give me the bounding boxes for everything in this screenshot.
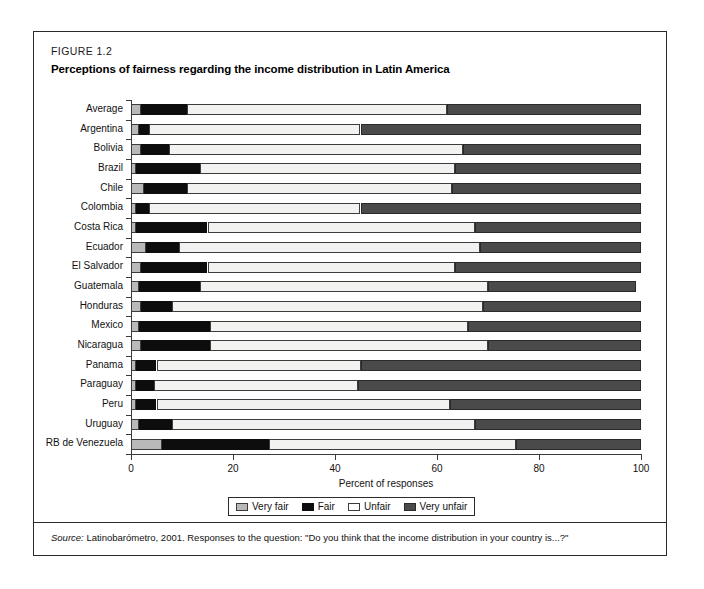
bar-segment-fair bbox=[139, 419, 172, 430]
x-axis-tick-label: 0 bbox=[111, 463, 151, 474]
bar-segment-very-unfair bbox=[358, 380, 641, 391]
bar-segment-unfair bbox=[210, 321, 468, 332]
figure-panel: FIGURE 1.2 Perceptions of fairness regar… bbox=[33, 31, 667, 556]
bar-segment-very-fair bbox=[131, 262, 141, 273]
bar-segment-unfair bbox=[269, 439, 516, 450]
bar-segment-very-unfair bbox=[361, 203, 642, 214]
y-axis-label: Honduras bbox=[0, 300, 123, 311]
x-axis-tick-label: 20 bbox=[213, 463, 253, 474]
bar-segment-very-unfair bbox=[468, 321, 641, 332]
bar-segment-very-fair bbox=[131, 419, 139, 430]
y-axis-label: Ecuador bbox=[0, 241, 123, 252]
y-axis-label: Costa Rica bbox=[0, 221, 123, 232]
bar-segment-very-unfair bbox=[475, 222, 641, 233]
bar-segment-very-fair bbox=[131, 183, 144, 194]
bar-segment-very-fair bbox=[131, 281, 139, 292]
legend-item-very-unfair[interactable]: Very unfair bbox=[404, 501, 468, 512]
y-axis-tick bbox=[126, 218, 131, 219]
y-axis-tick bbox=[126, 139, 131, 140]
bar-segment-fair bbox=[144, 183, 187, 194]
bar-segment-unfair bbox=[157, 399, 450, 410]
bar-row bbox=[131, 262, 641, 273]
x-axis-tick bbox=[233, 455, 234, 460]
y-axis-tick bbox=[126, 120, 131, 121]
bar-segment-unfair bbox=[200, 163, 455, 174]
legend-swatch-icon bbox=[236, 503, 248, 511]
y-axis-label: Brazil bbox=[0, 162, 123, 173]
bar-row bbox=[131, 222, 641, 233]
legend-item-very-fair[interactable]: Very fair bbox=[236, 501, 289, 512]
y-axis-tick bbox=[126, 395, 131, 396]
y-axis-label: El Salvador bbox=[0, 260, 123, 271]
bar-segment-unfair bbox=[200, 281, 488, 292]
bar-row bbox=[131, 360, 641, 371]
chart-legend: Very fairFairUnfairVery unfair bbox=[228, 497, 475, 516]
bar-segment-fair bbox=[141, 262, 207, 273]
bar-segment-very-unfair bbox=[483, 301, 641, 312]
bar-segment-unfair bbox=[208, 222, 476, 233]
y-axis-label: Nicaragua bbox=[0, 339, 123, 350]
bar-row bbox=[131, 380, 641, 391]
x-axis-tick bbox=[131, 455, 132, 460]
legend-label: Very unfair bbox=[420, 501, 468, 512]
y-axis-label: Average bbox=[0, 103, 123, 114]
bar-row bbox=[131, 340, 641, 351]
bar-segment-unfair bbox=[210, 340, 488, 351]
bar-row bbox=[131, 163, 641, 174]
y-axis-label: Mexico bbox=[0, 319, 123, 330]
y-axis-label: Argentina bbox=[0, 123, 123, 134]
y-axis-label: RB de Venezuela bbox=[0, 437, 123, 448]
bar-segment-fair bbox=[139, 281, 200, 292]
x-axis-tick bbox=[641, 455, 642, 460]
bar-segment-very-fair bbox=[131, 124, 139, 135]
y-axis-label: Paraguay bbox=[0, 378, 123, 389]
legend-label: Fair bbox=[318, 501, 335, 512]
bar-segment-unfair bbox=[169, 144, 462, 155]
y-axis-tick bbox=[126, 434, 131, 435]
bar-segment-very-unfair bbox=[452, 183, 641, 194]
bar-row bbox=[131, 301, 641, 312]
x-axis-line bbox=[131, 454, 642, 455]
y-axis-label: Uruguay bbox=[0, 418, 123, 429]
x-axis-title: Percent of responses bbox=[131, 478, 641, 489]
bar-segment-fair bbox=[136, 360, 156, 371]
x-axis-tick-label: 80 bbox=[519, 463, 559, 474]
y-axis-tick bbox=[126, 356, 131, 357]
bar-segment-fair bbox=[141, 144, 169, 155]
legend-item-fair[interactable]: Fair bbox=[302, 501, 335, 512]
figure-number: FIGURE 1.2 bbox=[51, 45, 112, 57]
bar-segment-fair bbox=[141, 104, 187, 115]
bar-segment-very-unfair bbox=[447, 104, 641, 115]
legend-item-unfair[interactable]: Unfair bbox=[348, 501, 391, 512]
bar-segment-unfair bbox=[179, 242, 480, 253]
bar-segment-fair bbox=[139, 321, 210, 332]
y-axis-tick bbox=[126, 100, 131, 101]
y-axis-label: Peru bbox=[0, 398, 123, 409]
bar-segment-fair bbox=[136, 380, 154, 391]
x-axis-tick bbox=[539, 455, 540, 460]
bar-segment-unfair bbox=[208, 262, 455, 273]
y-axis-label: Guatemala bbox=[0, 280, 123, 291]
bar-segment-very-unfair bbox=[361, 124, 642, 135]
bar-row bbox=[131, 183, 641, 194]
bar-segment-very-unfair bbox=[488, 340, 641, 351]
x-axis-tick bbox=[437, 455, 438, 460]
bar-segment-very-fair bbox=[131, 104, 141, 115]
bar-segment-unfair bbox=[149, 203, 361, 214]
legend-label: Very fair bbox=[252, 501, 289, 512]
y-axis-label: Colombia bbox=[0, 201, 123, 212]
x-axis-tick bbox=[335, 455, 336, 460]
bar-segment-very-fair bbox=[131, 321, 139, 332]
bar-row bbox=[131, 203, 641, 214]
bar-segment-very-fair bbox=[131, 242, 146, 253]
x-axis-tick-label: 60 bbox=[417, 463, 457, 474]
y-axis-tick bbox=[126, 238, 131, 239]
y-axis-tick bbox=[126, 277, 131, 278]
y-axis-tick bbox=[126, 257, 131, 258]
bar-segment-fair bbox=[162, 439, 269, 450]
bar-segment-unfair bbox=[154, 380, 358, 391]
bar-segment-unfair bbox=[149, 124, 361, 135]
y-axis-tick bbox=[126, 316, 131, 317]
bar-segment-unfair bbox=[157, 360, 361, 371]
y-axis-tick bbox=[126, 415, 131, 416]
